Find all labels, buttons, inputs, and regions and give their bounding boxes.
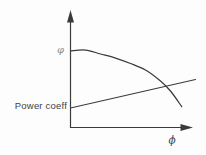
plot-canvas <box>0 0 206 155</box>
x-axis-arrow-icon <box>181 124 194 131</box>
series-path <box>71 50 182 107</box>
y-axis-arrow-icon <box>67 10 74 23</box>
power-coeff-label: Power coeff <box>8 100 67 111</box>
y-axis-label: φ <box>46 44 64 56</box>
series-group <box>71 50 196 108</box>
series-path <box>71 80 196 109</box>
x-axis-label: ϕ <box>165 134 179 147</box>
phi-power-coeff-chart: φ Power coeff ϕ <box>0 0 206 155</box>
